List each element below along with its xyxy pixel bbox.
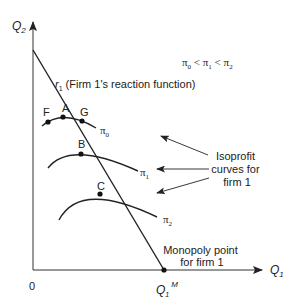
- point-g: [79, 118, 84, 123]
- isoprofit-note: Isoprofit curves for firm 1: [211, 150, 262, 188]
- point-c-label: C: [97, 180, 105, 192]
- profit-inequality: π0 < π1 < π2: [182, 56, 233, 71]
- point-b: [78, 151, 83, 156]
- x-axis-label: Q1: [270, 263, 284, 279]
- monopoly-point: [161, 267, 166, 272]
- isoprofit-curve-pi0-label: π0: [100, 124, 110, 139]
- point-f: [45, 119, 50, 124]
- point-a-label: A: [62, 102, 70, 114]
- point-g-label: G: [80, 106, 89, 118]
- point-b-label: B: [78, 138, 85, 150]
- point-a: [60, 114, 65, 119]
- y-axis-label: Q2: [12, 19, 26, 35]
- isoprofit-curve-pi2-label: π2: [163, 213, 173, 228]
- monopoly-note: Monopoly point for firm 1: [163, 244, 241, 268]
- origin-label: 0: [29, 280, 35, 292]
- point-f-label: F: [43, 106, 50, 118]
- point-c: [97, 191, 102, 196]
- isoprofit-curve-pi1: [48, 155, 138, 171]
- reaction-function-label: r1(Firm 1's reaction function): [55, 78, 195, 92]
- isoprofit-curve-pi2: [59, 199, 157, 220]
- isoprofit-arrow-pi0: [161, 136, 208, 155]
- reaction-function-diagram: Q2 Q1 0 r1(Firm 1's reaction function) π…: [0, 0, 297, 308]
- monopoly-quantity-label: Q1M: [156, 280, 178, 298]
- isoprofit-arrow-pi2: [157, 178, 209, 193]
- isoprofit-curve-pi1-label: π1: [140, 166, 150, 181]
